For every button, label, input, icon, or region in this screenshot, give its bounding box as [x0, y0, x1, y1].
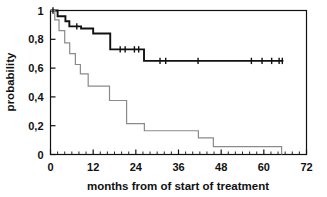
series-layer: [51, 11, 284, 155]
y-tick-label: 0: [37, 149, 43, 161]
y-axis-major-ticks: [51, 11, 56, 155]
chart-container: 0122436486072 00,20,40,60,81 months from…: [0, 0, 327, 197]
x-tick-label: 24: [130, 161, 143, 173]
plot-frame: [51, 11, 307, 155]
x-axis-title: months from of start of treatment: [87, 180, 269, 192]
x-tick-label: 72: [300, 161, 312, 173]
y-axis-tick-labels: 00,20,40,60,81: [28, 5, 44, 161]
series-lower-curve: [51, 11, 282, 155]
x-tick-label: 12: [87, 161, 99, 173]
series-upper-curve: [51, 11, 284, 61]
y-tick-label: 0,6: [28, 62, 43, 74]
x-axis-major-ticks: [51, 150, 307, 155]
y-tick-label: 0,8: [28, 33, 43, 45]
y-tick-label: 0,4: [28, 91, 44, 103]
x-tick-label: 36: [172, 161, 184, 173]
survival-chart: 0122436486072 00,20,40,60,81 months from…: [0, 0, 327, 197]
x-axis-tick-labels: 0122436486072: [47, 161, 312, 173]
x-tick-label: 0: [47, 161, 53, 173]
y-axis-title: probability: [4, 52, 16, 111]
y-tick-label: 1: [37, 5, 43, 17]
x-tick-label: 60: [258, 161, 270, 173]
x-tick-label: 48: [215, 161, 227, 173]
censor-marks-layer: [53, 7, 282, 64]
y-tick-label: 0,2: [28, 120, 43, 132]
